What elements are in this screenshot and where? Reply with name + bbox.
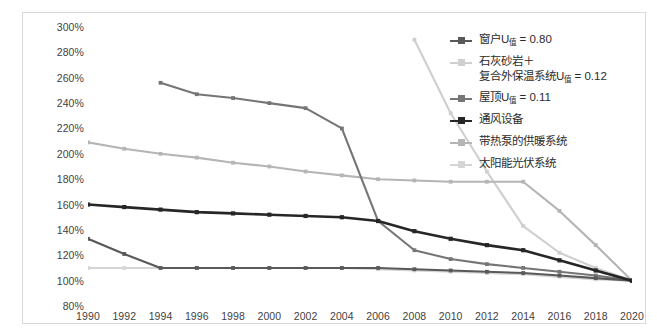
legend-item[interactable]: 窗户U值 = 0.80	[450, 32, 640, 47]
series-marker	[558, 209, 562, 213]
x-axis: 1990199219941996199820002002200420062008…	[88, 310, 632, 328]
y-axis-tick: 260%	[57, 72, 84, 84]
y-axis-tick: 180%	[57, 173, 84, 185]
x-axis-tick: 1990	[76, 310, 100, 322]
legend-swatch-icon	[450, 56, 472, 69]
series-marker	[557, 258, 561, 262]
series-marker	[159, 266, 163, 270]
series-marker	[449, 257, 453, 261]
y-axis-tick: 300%	[57, 21, 84, 33]
legend-item[interactable]: 石灰砂岩＋ 复合外保温系统U值 = 0.12	[450, 54, 640, 83]
y-axis-tick: 220%	[57, 122, 84, 134]
series-marker	[413, 179, 417, 183]
series-marker	[195, 210, 199, 214]
series-marker	[449, 180, 453, 184]
x-axis-tick: 2014	[511, 310, 535, 322]
legend-swatch-icon	[450, 92, 472, 105]
series-marker	[558, 270, 562, 274]
chart-container: 80%100%120%140%160%180%200%220%240%260%2…	[0, 0, 657, 336]
legend-swatch-icon	[450, 136, 472, 149]
series-marker	[122, 252, 126, 256]
legend-swatch-icon	[450, 114, 472, 127]
y-axis-tick: 280%	[57, 46, 84, 58]
series-marker	[449, 237, 453, 241]
x-axis-tick: 2012	[475, 310, 499, 322]
legend-label: 石灰砂岩＋ 复合外保温系统U值 = 0.12	[479, 54, 607, 83]
legend-item[interactable]: 带热泵的供暖系统	[450, 134, 640, 149]
x-axis-tick: 2006	[366, 310, 390, 322]
series-marker	[413, 248, 417, 252]
y-axis-tick: 140%	[57, 224, 84, 236]
series-marker	[558, 274, 562, 278]
x-axis-tick: 1996	[185, 310, 209, 322]
series-marker	[449, 269, 453, 273]
legend-label: 太阳能光伏系统	[479, 156, 556, 171]
legend-label: 屋顶U值 = 0.11	[479, 90, 551, 105]
series-marker	[485, 180, 489, 184]
series-marker	[122, 205, 126, 209]
x-axis-tick: 2000	[257, 310, 281, 322]
legend-swatch-icon	[450, 34, 472, 47]
series-marker	[304, 214, 308, 218]
series-marker	[340, 266, 344, 270]
series-marker	[485, 262, 489, 266]
y-axis-tick: 240%	[57, 97, 84, 109]
series-marker	[376, 219, 380, 223]
y-axis: 80%100%120%140%160%180%200%220%240%260%2…	[30, 27, 84, 306]
legend-label: 通风设备	[479, 112, 523, 127]
series-marker	[340, 127, 344, 131]
series-marker	[340, 173, 344, 177]
legend-label: 带热泵的供暖系统	[479, 134, 567, 149]
series-marker	[267, 213, 271, 217]
x-axis-tick: 1994	[149, 310, 173, 322]
series-marker	[267, 165, 271, 169]
series-marker	[267, 266, 271, 270]
legend-label: 窗户U值 = 0.80	[479, 32, 552, 47]
legend-swatch-icon	[450, 158, 472, 171]
series-marker	[594, 268, 598, 272]
y-axis-tick: 160%	[57, 199, 84, 211]
legend-item[interactable]: 太阳能光伏系统	[450, 156, 640, 171]
x-axis-tick: 2018	[584, 310, 608, 322]
series-marker	[521, 266, 525, 270]
legend-item[interactable]: 通风设备	[450, 112, 640, 127]
series-marker	[485, 270, 489, 274]
series-marker	[304, 106, 308, 110]
series-marker	[195, 266, 199, 270]
series-marker	[159, 81, 163, 85]
x-axis-tick: 2002	[294, 310, 318, 322]
series-marker	[231, 266, 235, 270]
series-marker	[485, 243, 489, 247]
x-axis-tick: 2010	[439, 310, 463, 322]
y-axis-tick: 200%	[57, 148, 84, 160]
series-marker	[159, 152, 163, 156]
x-axis-tick: 1992	[112, 310, 136, 322]
x-axis-tick: 1998	[221, 310, 245, 322]
y-axis-tick: 100%	[57, 275, 84, 287]
series-marker	[231, 211, 235, 215]
series-marker	[122, 266, 126, 270]
series-marker	[195, 92, 199, 96]
series-marker	[158, 208, 162, 212]
series-marker	[304, 266, 308, 270]
series-marker	[267, 101, 271, 105]
x-axis-tick: 2016	[548, 310, 572, 322]
series-marker	[231, 161, 235, 165]
series-marker	[413, 38, 417, 42]
series-marker	[231, 96, 235, 100]
series-marker	[340, 215, 344, 219]
series-marker	[594, 243, 598, 247]
series-marker	[594, 276, 598, 280]
series-marker	[521, 248, 525, 252]
series-marker	[122, 147, 126, 151]
chart-legend: 窗户U值 = 0.80石灰砂岩＋ 复合外保温系统U值 = 0.12屋顶U值 = …	[450, 32, 640, 178]
series-marker	[376, 266, 380, 270]
series-marker	[195, 156, 199, 160]
y-axis-tick: 120%	[57, 249, 84, 261]
series-marker	[412, 229, 416, 233]
series-marker	[521, 224, 525, 228]
series-marker	[558, 251, 562, 255]
series-marker	[413, 267, 417, 271]
legend-item[interactable]: 屋顶U值 = 0.11	[450, 90, 640, 105]
x-axis-tick: 2020	[620, 310, 644, 322]
